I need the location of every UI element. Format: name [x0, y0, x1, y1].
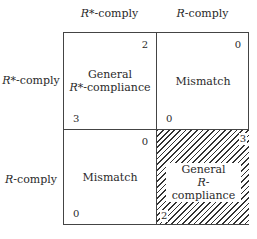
payoff-row-player: 0 [165, 113, 173, 125]
cell-label-box: General R-compliance [166, 163, 241, 202]
cell-label: Mismatch [64, 171, 156, 184]
payoff-matrix: 2 General R*-compliance 3 0 Mismatch 0 0… [63, 32, 249, 225]
payoff-column-player: 3 [239, 133, 247, 145]
cell-mismatch-top: 0 Mismatch 0 [157, 33, 249, 130]
cell-label: General R*-compliance [64, 68, 156, 94]
col-var: R [81, 7, 89, 20]
cell-general-r-compliance-hatched: 3 General R-compliance 2 [157, 130, 249, 224]
label-var: R [69, 81, 77, 94]
cell-label-line2: R-compliance [166, 176, 241, 202]
col-var: R [176, 7, 184, 20]
payoff-column-player: 0 [234, 39, 242, 51]
label-rest: -compliance [83, 81, 150, 94]
cell-label: General R-compliance [166, 163, 241, 202]
cell-label-line1: General [166, 163, 241, 176]
column-header-r-comply: R-comply [156, 7, 249, 20]
label-var: R [197, 176, 205, 189]
col-rest: -comply [95, 7, 139, 20]
payoff-row-player: 3 [72, 113, 80, 125]
row-header-r-star-comply: R*-comply [0, 74, 62, 87]
row-header-r-comply: R-comply [0, 173, 62, 186]
col-rest: -comply [185, 7, 229, 20]
row-rest: -comply [16, 74, 60, 87]
cell-mismatch-bottom: 0 Mismatch 0 [64, 130, 157, 224]
payoff-row-player: 2 [160, 210, 168, 222]
cell-label: Mismatch [157, 75, 249, 88]
payoff-column-player: 0 [141, 136, 149, 148]
payoff-column-player: 2 [141, 39, 149, 51]
row-var: R [2, 74, 10, 87]
cell-label-line1: General [64, 68, 156, 81]
row-rest: -comply [13, 173, 57, 186]
cell-label-line2: R*-compliance [64, 81, 156, 94]
column-header-r-star-comply: R*-comply [63, 7, 156, 20]
cell-general-r-star-compliance: 2 General R*-compliance 3 [64, 33, 157, 130]
payoff-row-player: 0 [72, 208, 80, 220]
